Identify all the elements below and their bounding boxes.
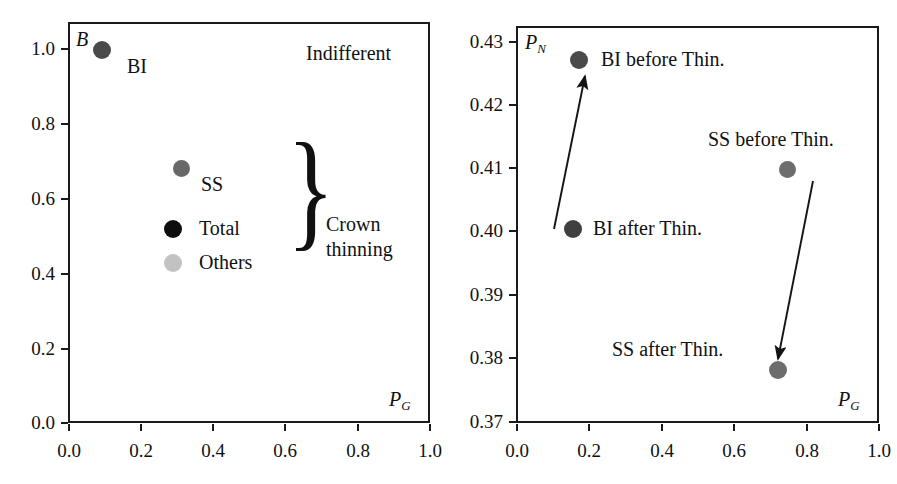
data-label-ss-after-thin: SS after Thin. (612, 339, 723, 360)
y-tick-label: 0.38 (447, 348, 503, 367)
x-axis-label-subscript: G (850, 398, 859, 413)
x-tick-mark (68, 424, 70, 431)
y-tick-label: 0.40 (447, 221, 503, 240)
y-tick-mark (61, 123, 68, 125)
y-tick-label: 0.41 (447, 158, 503, 177)
y-tick-mark (61, 273, 68, 275)
y-tick-label: 0.0 (10, 413, 55, 432)
annotation-indifferent: Indifferent (306, 43, 391, 64)
y-tick-label: 0.4 (10, 264, 55, 283)
x-tick-mark (516, 424, 518, 431)
x-tick-label: 0.0 (492, 441, 542, 460)
data-label-bi-after-thin: BI after Thin. (593, 218, 702, 239)
x-tick-mark (878, 424, 880, 431)
x-tick-mark (806, 424, 808, 431)
y-tick-mark (509, 104, 516, 106)
x-tick-label: 0.6 (260, 441, 310, 460)
figure-two-panel-scatter: 1.0 0.8 0.6 0.4 0.2 0.0 0.0 0.2 0.4 0.6 … (0, 0, 897, 484)
data-point-bi-before-thin (570, 51, 588, 69)
x-tick-label: 0.8 (782, 441, 832, 460)
y-axis-label-left: B (76, 28, 88, 51)
x-tick-label: 0.2 (564, 441, 614, 460)
data-label-bi: BI (127, 56, 147, 77)
x-tick-mark (588, 424, 590, 431)
x-tick-mark (140, 424, 142, 431)
x-tick-label: 0.2 (116, 441, 166, 460)
x-tick-label: 1.0 (405, 441, 455, 460)
y-tick-label: 0.37 (447, 412, 503, 431)
x-axis-label-text: P (838, 388, 850, 410)
data-label-bi-before-thin: BI before Thin. (601, 49, 725, 70)
y-axis-label-right: PN (525, 31, 546, 54)
y-axis-label-subscript: N (537, 41, 546, 56)
data-point-ss-before-thin (779, 161, 796, 178)
x-axis-label-subscript: G (401, 398, 410, 413)
y-tick-label: 0.8 (10, 114, 55, 133)
x-tick-mark (661, 424, 663, 431)
y-axis-label-text: P (525, 31, 537, 53)
y-tick-mark (509, 357, 516, 359)
data-point-ss (173, 160, 190, 177)
panel-right: 0.43 0.42 0.41 0.40 0.39 0.38 0.37 0.0 0… (449, 0, 897, 484)
data-point-ss-after-thin (769, 361, 787, 379)
y-tick-mark (509, 421, 516, 423)
y-tick-mark (61, 422, 68, 424)
y-tick-mark (61, 198, 68, 200)
data-label-ss: SS (201, 174, 223, 195)
data-label-ss-before-thin: SS before Thin. (708, 129, 834, 150)
y-tick-label: 0.2 (10, 339, 55, 358)
x-tick-label: 0.4 (637, 441, 687, 460)
legend-label-total: Total (199, 218, 240, 239)
panel-left: 1.0 0.8 0.6 0.4 0.2 0.0 0.0 0.2 0.4 0.6 … (0, 0, 448, 484)
legend-swatch-others (164, 254, 182, 272)
y-tick-mark (61, 48, 68, 50)
data-point-bi-after-thin (564, 220, 582, 238)
y-tick-label: 0.43 (447, 32, 503, 51)
legend-label-others: Others (199, 252, 252, 273)
y-tick-mark (509, 294, 516, 296)
x-tick-label: 0.0 (44, 441, 94, 460)
x-tick-label: 1.0 (854, 441, 897, 460)
y-tick-mark (509, 230, 516, 232)
x-tick-label: 0.4 (188, 441, 238, 460)
data-point-bi (93, 41, 111, 59)
x-tick-label: 0.6 (709, 441, 759, 460)
x-axis-label-text: P (389, 388, 401, 410)
x-tick-mark (212, 424, 214, 431)
y-tick-mark (509, 167, 516, 169)
x-tick-label: 0.8 (333, 441, 383, 460)
x-axis-label-left: PG (389, 388, 411, 411)
x-tick-mark (429, 424, 431, 431)
x-tick-mark (733, 424, 735, 431)
annotation-crown-thinning-line2: thinning (326, 238, 393, 261)
y-tick-mark (509, 41, 516, 43)
legend-swatch-total (164, 220, 182, 238)
y-tick-label: 0.39 (447, 285, 503, 304)
annotation-crown-thinning-line1: Crown (326, 213, 380, 236)
x-tick-mark (284, 424, 286, 431)
x-tick-mark (357, 424, 359, 431)
y-tick-label: 0.6 (10, 189, 55, 208)
y-tick-label: 0.42 (447, 95, 503, 114)
x-axis-label-right: PG (838, 388, 860, 411)
y-tick-mark (61, 348, 68, 350)
y-tick-label: 1.0 (10, 39, 55, 58)
